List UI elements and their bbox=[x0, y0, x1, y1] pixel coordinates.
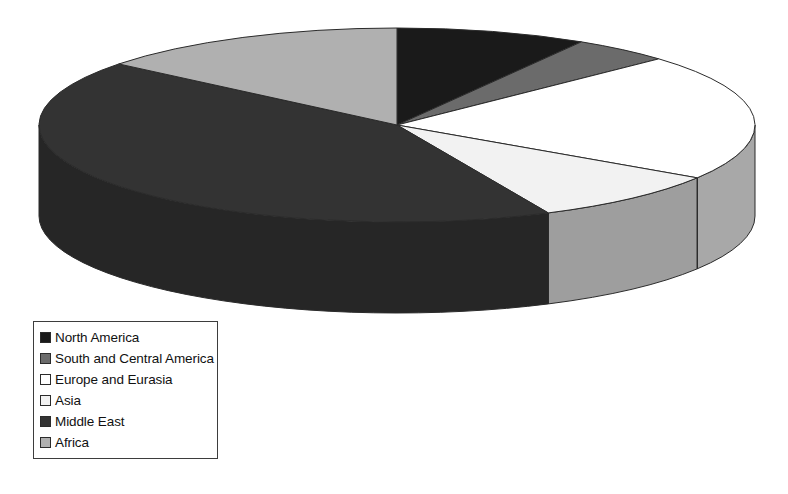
pie-top-face-group bbox=[39, 28, 755, 222]
legend-item-africa[interactable]: Africa bbox=[40, 432, 213, 453]
legend-label-europe-and-eurasia: Europe and Eurasia bbox=[55, 373, 173, 387]
legend-swatch-europe-and-eurasia bbox=[40, 374, 51, 385]
legend-item-asia[interactable]: Asia bbox=[40, 390, 213, 411]
legend-swatch-africa bbox=[40, 437, 51, 448]
legend-swatch-middle-east bbox=[40, 416, 51, 427]
legend-swatch-asia bbox=[40, 395, 51, 406]
legend-item-middle-east[interactable]: Middle East bbox=[40, 411, 213, 432]
legend-swatch-south-and-central-america bbox=[40, 353, 51, 364]
pie-chart-figure: North America South and Central America … bbox=[0, 0, 788, 494]
legend-item-europe-and-eurasia[interactable]: Europe and Eurasia bbox=[40, 369, 213, 390]
legend-item-south-and-central-america[interactable]: South and Central America bbox=[40, 348, 213, 369]
legend-label-middle-east: Middle East bbox=[55, 415, 124, 429]
legend-label-south-and-central-america: South and Central America bbox=[55, 352, 214, 366]
legend-item-north-america[interactable]: North America bbox=[40, 327, 213, 348]
legend-label-africa: Africa bbox=[55, 436, 89, 450]
chart-legend: North America South and Central America … bbox=[33, 321, 218, 459]
legend-swatch-north-america bbox=[40, 332, 51, 343]
legend-label-north-america: North America bbox=[55, 331, 139, 345]
legend-label-asia: Asia bbox=[55, 394, 81, 408]
